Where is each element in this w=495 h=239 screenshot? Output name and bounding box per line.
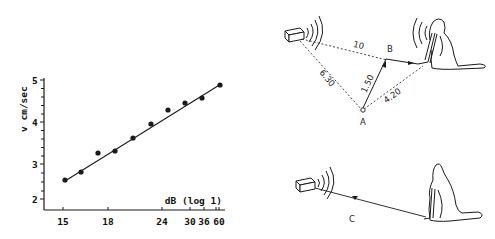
chart: 5 4 3 2 v cm/sec 15 18 24 30 36 60 dB (l… <box>18 75 225 227</box>
kneeling-figure-icon <box>424 164 482 221</box>
label-dist-10: 10 <box>352 39 365 51</box>
diagram-top: A B 10 6.30 1.50 4.20 <box>285 16 485 127</box>
kneeling-figure-icon <box>418 19 485 69</box>
sound-source-box <box>285 28 304 42</box>
label-dist-150: 1.50 <box>359 73 376 94</box>
sound-waves-icon <box>318 167 334 199</box>
data-point <box>130 135 135 140</box>
label-dist-420: 4.20 <box>382 86 403 105</box>
data-point <box>62 177 67 182</box>
label-dist-630: 6.30 <box>317 68 337 89</box>
sound-waves-icon <box>413 18 427 48</box>
approach-line <box>315 188 426 217</box>
data-point <box>182 100 187 105</box>
y-axis-title-text: v cm/sec <box>18 86 29 132</box>
data-point <box>95 150 100 155</box>
sound-source-box <box>296 178 315 192</box>
data-point <box>148 121 153 126</box>
sound-waves-icon <box>306 16 323 50</box>
x-tick-15: 15 <box>57 216 69 227</box>
diagram-bottom: C <box>296 164 482 224</box>
y-tick-4: 4 <box>32 117 38 128</box>
x-axis-title: dB (log 1) <box>165 195 222 206</box>
data-point <box>217 82 222 87</box>
y-tick-3: 3 <box>32 159 38 170</box>
data-point <box>199 95 204 100</box>
x-tick-24: 24 <box>156 216 168 227</box>
y-axis-title: v cm/sec <box>18 86 29 132</box>
figure-canvas: 5 4 3 2 v cm/sec 15 18 24 30 36 60 dB (l… <box>0 0 495 239</box>
y-tick-5: 5 <box>32 75 38 86</box>
fit-line <box>65 84 221 181</box>
label-c: C <box>349 214 355 224</box>
data-point <box>112 148 117 153</box>
label-b: B <box>387 44 393 54</box>
x-tick-60: 60 <box>213 216 225 227</box>
point-a-marker <box>361 108 365 112</box>
arrow-head <box>408 61 414 65</box>
x-tick-30: 30 <box>184 216 196 227</box>
y-tick-2: 2 <box>32 194 38 205</box>
x-tick-18: 18 <box>102 216 114 227</box>
data-point <box>78 169 83 174</box>
label-a: A <box>360 117 366 127</box>
x-tick-36: 36 <box>198 216 210 227</box>
data-point <box>165 107 170 112</box>
